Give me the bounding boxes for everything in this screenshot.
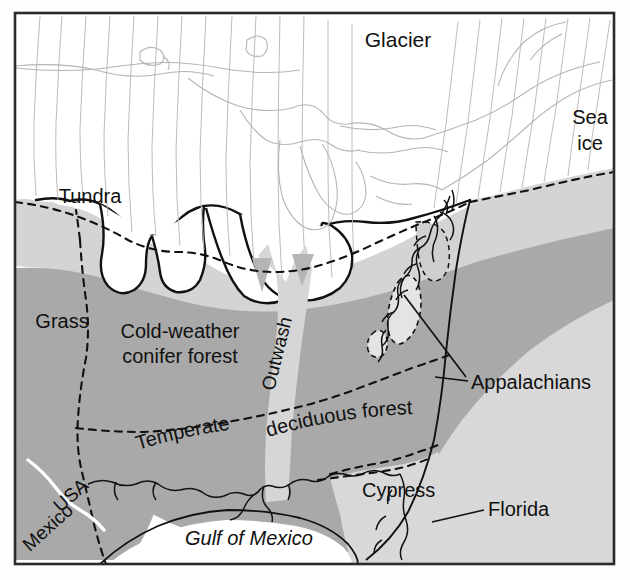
- label-florida: Florida: [488, 498, 550, 520]
- label-tundra: Tundra: [59, 185, 123, 207]
- paleoclimate-map: Glacier Sea ice Tundra Grass Cold-weathe…: [0, 0, 630, 580]
- label-conifer-forest-line1: Cold-weather: [121, 320, 240, 342]
- label-grass: Grass: [35, 310, 88, 332]
- label-conifer-forest-line2: conifer forest: [122, 345, 238, 367]
- label-cypress: Cypress: [362, 479, 435, 501]
- label-sea-ice-line2: ice: [577, 132, 603, 154]
- map-canvas: Glacier Sea ice Tundra Grass Cold-weathe…: [0, 0, 630, 580]
- label-glacier: Glacier: [365, 28, 432, 51]
- map-body: Glacier Sea ice Tundra Grass Cold-weathe…: [15, 13, 614, 564]
- label-gulf-of-mexico: Gulf of Mexico: [185, 527, 313, 549]
- label-sea-ice-line1: Sea: [572, 106, 608, 128]
- label-appalachians: Appalachians: [471, 371, 591, 393]
